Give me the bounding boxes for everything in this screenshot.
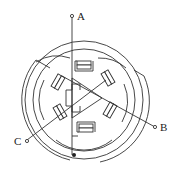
star-junction-dot [72,153,76,157]
wire-c [27,80,106,140]
rotor [66,78,102,118]
frame-inner-arc-left [39,80,44,120]
frame-inner-arc-top-right [98,58,126,68]
terminal-a-node [70,14,73,17]
terminal-b: B [153,121,167,133]
terminal-b-label: B [160,121,167,133]
stepper-motor-diagram: A B C [0,0,178,173]
coil-lower-left [53,104,67,120]
coil-lower-right [103,102,117,118]
terminal-b-node [153,125,156,128]
frame-inner-arc-bottom [56,140,112,150]
coil-top [75,61,93,71]
terminal-c-node [25,139,28,142]
coil-bottom [77,122,95,132]
terminal-c: C [14,135,29,147]
frame-inner-arc-right [122,84,128,122]
coil-upper-right [101,70,115,86]
terminal-a: A [70,10,85,22]
terminal-a-label: A [77,10,85,22]
terminal-c-label: C [14,135,21,147]
stator-frame [22,41,150,162]
